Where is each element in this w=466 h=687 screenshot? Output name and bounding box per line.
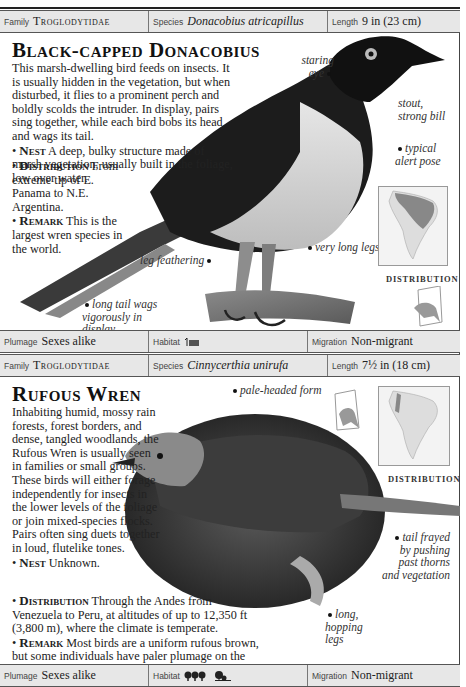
annotation-long-legs: very long legs bbox=[305, 241, 380, 254]
remark-label: Remark bbox=[19, 635, 63, 650]
distribution-label-text: DISTRIBUTION bbox=[386, 274, 458, 284]
intro-text: Inhabiting humid, mossy rain forests, fo… bbox=[12, 405, 160, 555]
south-america-map-icon bbox=[379, 187, 447, 265]
species-cell: Species Cinnycerthia unirufa bbox=[149, 355, 328, 376]
annotation-staring-eye: staring eye bbox=[290, 54, 334, 79]
length-label: Length bbox=[332, 17, 358, 27]
family-cell: Family Troglodytidae bbox=[0, 355, 149, 376]
distribution-map bbox=[378, 386, 450, 466]
length-value: 9 in (23 cm) bbox=[362, 14, 421, 29]
footer-bar-donacobius: Plumage Sexes alike Habitat Migration No… bbox=[0, 330, 460, 353]
length-cell: Length 7½ in (18 cm) bbox=[328, 355, 460, 376]
migration-cell: Migration Non-migrant bbox=[308, 331, 460, 352]
family-cell: Family Troglodytidae bbox=[0, 11, 149, 32]
plumage-value: Sexes alike bbox=[42, 334, 96, 349]
entry-rufous-wren: Rufous Wren Inhabiting humid, mossy rain… bbox=[0, 376, 460, 664]
migration-cell: Migration Non-migrant bbox=[308, 665, 460, 686]
species-cell: Species Donacobius atricapillus bbox=[149, 11, 328, 32]
nest-label: Nest bbox=[19, 555, 45, 570]
booklet-icon bbox=[410, 286, 450, 328]
south-america-map-icon bbox=[379, 387, 449, 465]
habitat-cell: Habitat bbox=[149, 665, 308, 686]
marsh-water-icon bbox=[184, 337, 200, 347]
distribution-label: Distribution bbox=[19, 593, 88, 608]
plumage-cell: Plumage Sexes alike bbox=[0, 331, 149, 352]
nest-text: Unknown. bbox=[49, 556, 100, 570]
length-label: Length bbox=[332, 361, 358, 371]
distribution-label: Distribution bbox=[19, 158, 88, 173]
info-bar-donacobius: Family Troglodytidae Species Donacobius … bbox=[0, 10, 460, 33]
remark-label: Remark bbox=[19, 213, 63, 228]
description-cont: • Distribution From extreme tip of E. Pa… bbox=[12, 159, 127, 256]
distribution-label-text: DISTRIBUTION bbox=[388, 474, 460, 484]
species-value: Cinnycerthia unirufa bbox=[187, 358, 288, 373]
length-value: 7½ in (18 cm) bbox=[362, 358, 430, 373]
species-label: Species bbox=[153, 361, 183, 371]
migration-label: Migration bbox=[312, 671, 347, 681]
migration-value: Non-migrant bbox=[351, 668, 413, 683]
annotation-tail-frayed: tail frayed by pushing past thorns and v… bbox=[380, 531, 450, 581]
plumage-value: Sexes alike bbox=[42, 668, 96, 683]
migration-value: Non-migrant bbox=[351, 334, 413, 349]
forest-icon bbox=[184, 671, 206, 681]
species-label: Species bbox=[153, 17, 183, 27]
footer-bar-rufous-wren: Plumage Sexes alike Habitat Migration No… bbox=[0, 664, 460, 687]
info-bar-rufous-wren: Family Troglodytidae Species Cinnycerthi… bbox=[0, 354, 460, 377]
plumage-label: Plumage bbox=[4, 337, 38, 347]
species-value: Donacobius atricapillus bbox=[187, 14, 303, 29]
species-title: Rufous Wren bbox=[12, 382, 141, 407]
distribution-map bbox=[378, 186, 448, 266]
booklet-icon bbox=[333, 388, 363, 432]
plumage-cell: Plumage Sexes alike bbox=[0, 665, 149, 686]
habitat-cell: Habitat bbox=[149, 331, 308, 352]
family-label: Family bbox=[4, 17, 29, 27]
annotation-stout-bill: stout, strong bill bbox=[398, 97, 446, 122]
habitat-label: Habitat bbox=[153, 671, 180, 681]
family-label: Family bbox=[4, 361, 29, 371]
description: Inhabiting humid, mossy rain forests, fo… bbox=[12, 406, 160, 570]
nest-label: Nest bbox=[19, 143, 45, 158]
family-value: Troglodytidae bbox=[33, 14, 110, 29]
top-rule bbox=[0, 7, 460, 9]
entry-donacobius: Black-capped Donacobius This marsh-dwell… bbox=[0, 32, 460, 330]
woodland-icon bbox=[214, 671, 232, 681]
habitat-label: Habitat bbox=[153, 337, 180, 347]
species-title: Black-capped Donacobius bbox=[12, 38, 260, 63]
plumage-label: Plumage bbox=[4, 671, 38, 681]
migration-label: Migration bbox=[312, 337, 347, 347]
family-value: Troglodytidae bbox=[33, 358, 110, 373]
intro-text: This marsh-dwelling bird feeds on insect… bbox=[12, 61, 230, 143]
annotation-hopping-legs: long, hopping legs bbox=[325, 608, 375, 646]
annotation-alert-pose: typical alert pose bbox=[395, 142, 450, 167]
length-cell: Length 9 in (23 cm) bbox=[328, 11, 460, 32]
annotation-pale-headed-form: pale-headed form bbox=[230, 384, 321, 397]
annotation-leg-feathering: leg feathering bbox=[140, 254, 214, 267]
